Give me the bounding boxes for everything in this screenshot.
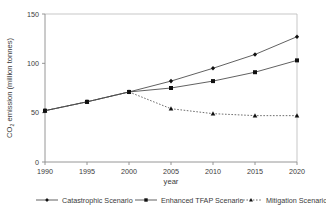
x-axis: 1990199520002005201020152020 — [37, 162, 305, 176]
x-axis-tick-label: 2010 — [205, 167, 221, 176]
y-axis-title: CO2 emission (million tonnes) — [5, 38, 15, 138]
y-axis: 050100150 — [27, 10, 45, 167]
y-axis-tick-label: 150 — [27, 10, 39, 19]
data-point-marker-square — [144, 198, 147, 201]
series-line — [45, 60, 297, 110]
x-axis-tick-label: 1990 — [37, 167, 53, 176]
data-point-marker-diamond — [45, 198, 49, 202]
x-axis-tick-label: 2020 — [289, 167, 305, 176]
y-axis-tick-label: 50 — [31, 108, 39, 117]
y-axis-title-rest: emission (million tonnes) — [5, 38, 14, 124]
data-series-2 — [43, 58, 299, 112]
x-axis-title: year — [164, 177, 179, 186]
legend-item-3[interactable]: Mitigation Scenario — [240, 196, 326, 205]
y-axis-tick-label: 0 — [35, 158, 39, 167]
data-point-marker-square — [211, 79, 215, 83]
y-axis-title-main: CO — [5, 126, 14, 137]
legend-item-2[interactable]: Enhanced TFAP Scenario — [135, 196, 243, 205]
data-series-layer — [43, 34, 300, 117]
chart-container: 050100150 1990199520002005201020152020 C… — [0, 0, 326, 209]
chart-legend: Catastrophic ScenarioEnhanced TFAP Scena… — [36, 196, 326, 205]
legend-label: Mitigation Scenario — [266, 196, 326, 205]
data-point-marker-diamond — [169, 79, 173, 84]
data-point-marker-diamond — [253, 52, 257, 57]
data-point-marker-diamond — [295, 34, 299, 39]
data-point-marker-diamond — [211, 66, 215, 71]
x-axis-tick-label: 2000 — [121, 167, 137, 176]
data-point-marker-triangle — [211, 111, 216, 115]
series-line — [45, 92, 297, 116]
data-point-marker-square — [169, 86, 173, 90]
x-axis-tick-label: 2015 — [247, 167, 263, 176]
co2-emission-line-chart: 050100150 1990199520002005201020152020 C… — [0, 0, 326, 209]
data-point-marker-triangle — [169, 106, 174, 110]
legend-label: Enhanced TFAP Scenario — [161, 196, 243, 205]
data-series-1 — [43, 34, 299, 113]
data-point-marker-square — [253, 70, 257, 74]
x-axis-tick-label: 2005 — [163, 167, 179, 176]
y-axis-tick-label: 100 — [27, 59, 39, 68]
data-series-3 — [43, 90, 300, 118]
series-line — [45, 37, 297, 111]
legend-item-1[interactable]: Catastrophic Scenario — [36, 196, 133, 205]
data-point-marker-triangle — [253, 113, 258, 117]
svg-text:CO2 emission (million tonnes): CO2 emission (million tonnes) — [5, 38, 15, 138]
legend-label: Catastrophic Scenario — [62, 196, 133, 205]
data-point-marker-square — [295, 58, 299, 62]
x-axis-tick-label: 1995 — [79, 167, 95, 176]
